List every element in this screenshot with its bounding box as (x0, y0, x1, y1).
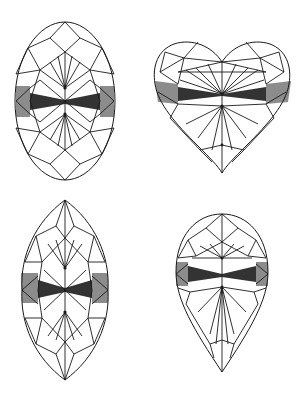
marquise-diamond (21, 200, 108, 380)
heart-diamond (154, 42, 291, 173)
pear-diamond (176, 214, 268, 372)
marquise-left-shade (21, 273, 38, 303)
diamond-bowtie-diagram (0, 0, 308, 406)
oval-diamond (15, 22, 115, 180)
